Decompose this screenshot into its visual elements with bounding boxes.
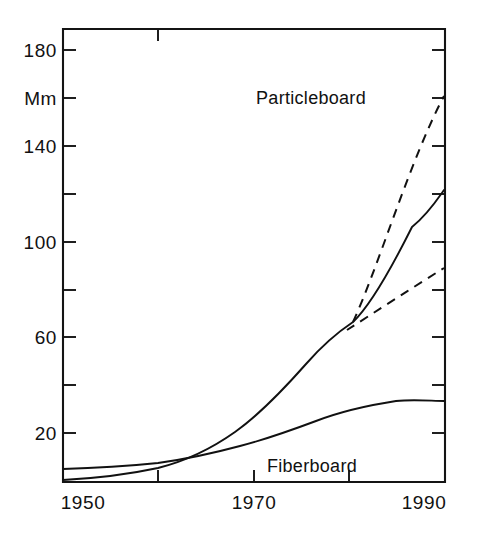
y-axis-labels: 180 Mm 140 100 60 20 xyxy=(23,40,57,444)
y-axis-label-180: 180 xyxy=(23,40,57,61)
line-chart: 180 Mm 140 100 60 20 1950 1970 1990 Part… xyxy=(0,0,478,536)
series-label-particleboard: Particleboard xyxy=(256,88,366,108)
x-axis-label-1950: 1950 xyxy=(61,492,106,513)
x-axis-labels: 1950 1970 1990 xyxy=(61,492,447,513)
y-axis-unit: Mm xyxy=(24,88,57,109)
series-particleboard-low-projection xyxy=(347,268,444,330)
y-axis-label-20: 20 xyxy=(35,423,57,444)
y-axis-ticks xyxy=(63,50,76,433)
y-axis-label-60: 60 xyxy=(35,327,57,348)
axis-frame xyxy=(63,29,445,482)
y-axis-label-100: 100 xyxy=(23,232,57,253)
series-label-fiberboard: Fiberboard xyxy=(267,456,357,476)
chart-axes xyxy=(63,29,445,482)
series-particleboard-line xyxy=(63,190,444,480)
x-axis-label-1990: 1990 xyxy=(402,492,447,513)
chart-container: 180 Mm 140 100 60 20 1950 1970 1990 Part… xyxy=(0,0,478,536)
series-fiberboard-line xyxy=(63,400,444,469)
y-axis-label-140: 140 xyxy=(23,136,57,157)
x-axis-label-1970: 1970 xyxy=(232,492,277,513)
